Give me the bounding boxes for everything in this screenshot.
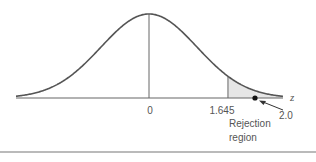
test-statistic-label: 2.0 bbox=[279, 110, 293, 121]
rejection-region-label-line2: region bbox=[229, 132, 257, 143]
z-axis-label: z bbox=[289, 91, 295, 103]
normal-curve-diagram: z 0 1.645 2.0 Rejection region bbox=[0, 0, 316, 162]
tick-label-critical: 1.645 bbox=[209, 105, 234, 116]
tick-label-0: 0 bbox=[147, 105, 153, 116]
test-statistic-arrow bbox=[263, 102, 283, 110]
test-statistic-point bbox=[252, 95, 257, 100]
rejection-region-label-line1: Rejection bbox=[229, 118, 271, 129]
